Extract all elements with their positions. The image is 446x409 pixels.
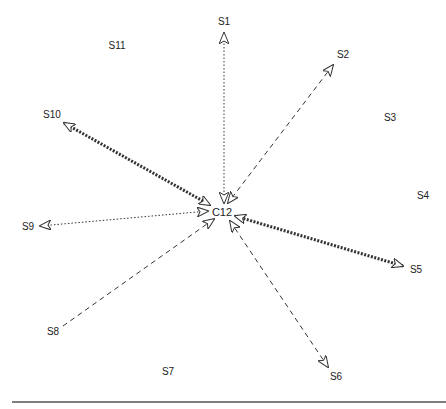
node-label-s2: S2	[337, 50, 349, 60]
node-label-s8: S8	[47, 327, 59, 337]
node-label-s10: S10	[43, 110, 61, 120]
edge-group	[40, 33, 403, 367]
bottom-divider	[12, 401, 446, 403]
node-label-s6: S6	[330, 372, 342, 382]
edge-s2-c12	[228, 65, 333, 203]
edge-s5-c12	[235, 216, 403, 266]
node-label-s4: S4	[417, 191, 429, 201]
node-label-s3: S3	[384, 113, 396, 123]
edge-s8-c12	[63, 219, 214, 326]
edge-s6-c12	[230, 221, 328, 367]
network-diagram: S1S2S3S4S5S6S7S8S9S10S11 C12	[0, 0, 446, 409]
node-label-s11: S11	[108, 41, 125, 51]
edges-layer	[0, 0, 446, 409]
center-node-label: C12	[212, 207, 232, 218]
node-label-s1: S1	[218, 17, 230, 27]
node-label-s5: S5	[410, 265, 422, 275]
node-label-s9: S9	[22, 222, 34, 232]
edge-s10-c12	[64, 123, 210, 205]
edge-s9-c12	[40, 211, 208, 226]
node-label-s7: S7	[162, 367, 174, 377]
